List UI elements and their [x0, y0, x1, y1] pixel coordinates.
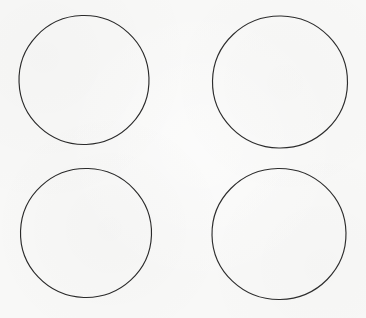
figure-canvas	[0, 0, 366, 318]
circle-bottom-right	[211, 167, 347, 300]
circle-bottom-left	[18, 166, 153, 299]
circles-figure	[0, 0, 366, 318]
circle-top-left	[17, 13, 151, 146]
circle-top-right	[211, 15, 348, 149]
